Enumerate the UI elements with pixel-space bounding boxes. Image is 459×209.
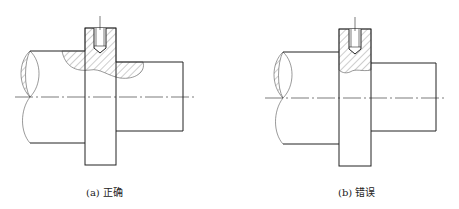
caption-a: (a) 正确 <box>86 184 123 199</box>
figure-a-correct <box>15 16 196 165</box>
diagram-root: (a) 正确 (b) 错误 <box>0 0 459 209</box>
shaft-collar-drawings <box>0 0 459 209</box>
caption-b: (b) 错误 <box>338 184 375 199</box>
figure-b-wrong <box>265 17 447 166</box>
